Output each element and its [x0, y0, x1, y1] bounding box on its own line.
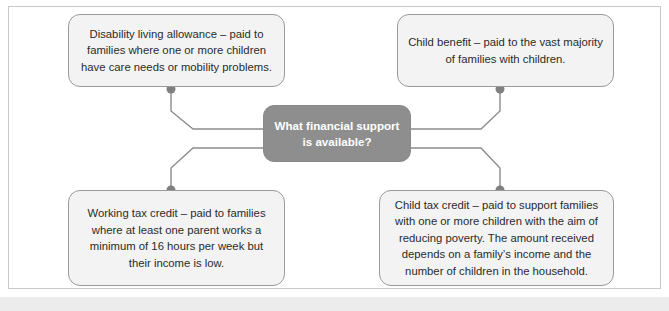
footer-strip	[0, 297, 669, 311]
node-wtc-text: Working tax credit – paid to families wh…	[79, 205, 274, 271]
node-child-tax-credit[interactable]: Child tax credit – paid to support famil…	[379, 190, 614, 286]
central-question-line-1: What financial support	[275, 119, 400, 132]
node-ctc-text: Child tax credit – paid to support famil…	[390, 197, 603, 280]
diagram-canvas: Disability living allowance – paid to fa…	[0, 0, 669, 311]
node-cb-text: Child benefit – paid to the vast majorit…	[408, 34, 603, 67]
central-question-text: What financial support is available?	[264, 118, 410, 150]
node-child-benefit[interactable]: Child benefit – paid to the vast majorit…	[397, 14, 614, 87]
central-question-line-2: is available?	[303, 135, 372, 148]
node-central-question[interactable]: What financial support is available?	[263, 105, 411, 162]
node-dla-text: Disability living allowance – paid to fa…	[79, 26, 274, 76]
node-working-tax-credit[interactable]: Working tax credit – paid to families wh…	[68, 190, 285, 286]
node-disability-living-allowance[interactable]: Disability living allowance – paid to fa…	[68, 14, 285, 87]
